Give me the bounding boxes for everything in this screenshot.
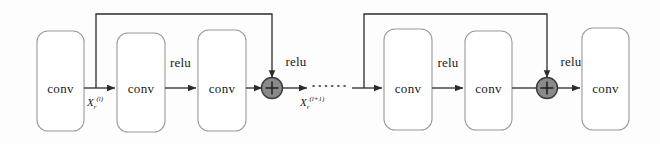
relu-label-3: relu — [437, 56, 458, 69]
residual-block-diagram: conv conv conv conv conv conv relu relu … — [0, 0, 660, 144]
relu-label-1: relu — [170, 56, 191, 69]
tensor-input-superscript: (l) — [96, 95, 103, 103]
conv-label-2: conv — [209, 82, 235, 95]
tensor-label-output: Xr(l+1) — [300, 96, 324, 111]
conv-label-0: conv — [47, 82, 73, 95]
conv-box-5 — [582, 28, 629, 130]
tensor-input-subscript: r — [94, 103, 97, 111]
conv-label-1: conv — [128, 82, 154, 95]
sum-node-2 — [537, 78, 558, 99]
conv-label-4: conv — [475, 82, 501, 95]
relu-label-2: relu — [285, 55, 306, 68]
conv-label-3: conv — [395, 82, 421, 95]
diagram-canvas — [0, 0, 660, 144]
tensor-label-input: Xr(l) — [87, 96, 103, 111]
tensor-output-superscript: (l+1) — [309, 95, 324, 103]
tensor-output-base: X — [300, 96, 307, 108]
conv-label-5: conv — [592, 82, 618, 95]
tensor-input-base: X — [87, 96, 94, 108]
sum-node-1 — [262, 78, 283, 99]
relu-label-4: relu — [560, 55, 581, 68]
tensor-output-subscript: r — [307, 103, 310, 111]
conv-box-3 — [384, 29, 432, 130]
